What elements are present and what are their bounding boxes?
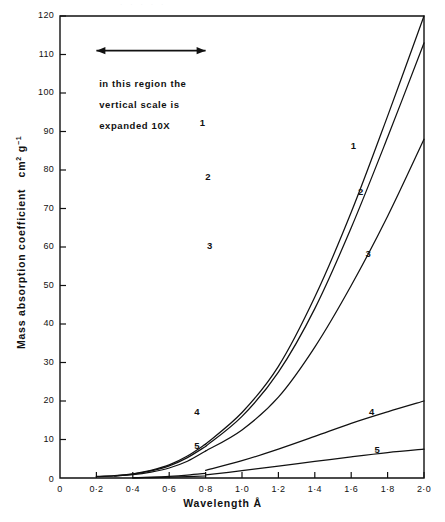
curve-2-normal [206, 43, 424, 446]
x-tick-label: 0·4 [116, 484, 150, 494]
y-tick-label: 110 [20, 49, 54, 59]
curve-label-5-normal: 5 [375, 444, 380, 455]
curve-label-1-normal: 1 [351, 140, 356, 151]
y-tick-label: 120 [20, 10, 54, 20]
curve-label-4-normal: 4 [369, 406, 374, 417]
curve-1-normal [206, 16, 424, 444]
y-tick-label: 100 [20, 87, 54, 97]
annotation-line-1: in this region the [99, 78, 186, 89]
y-tick-label: 20 [20, 395, 54, 405]
curve-label-4-expanded: 4 [194, 406, 199, 417]
y-tick-label: 30 [20, 357, 54, 367]
x-tick-label: 0 [43, 484, 77, 494]
curve-label-3-expanded: 3 [207, 240, 212, 251]
curve-4-normal [206, 401, 424, 470]
annotation-line-2: vertical scale is [99, 99, 179, 110]
x-tick-label: 1·6 [334, 484, 368, 494]
y-tick-label: 0 [20, 474, 54, 484]
y-tick-label: 90 [20, 126, 54, 136]
curve-3-normal [206, 139, 424, 451]
expanded-region-arrow [96, 47, 205, 54]
y-tick-label: 70 [20, 203, 54, 213]
x-tick-label: 0·2 [79, 484, 113, 494]
curve-label-5-expanded: 5 [194, 440, 199, 451]
mass-absorption-coefficient-chart: · · · · · Mass absorption coefficient cm… [0, 0, 445, 522]
curve-label-2-expanded: 2 [205, 171, 210, 182]
y-tick-label: 60 [20, 241, 54, 251]
y-tick-label: 80 [20, 164, 54, 174]
annotation-line-3: expanded 10X [99, 120, 170, 131]
x-tick-label: 1·4 [298, 484, 332, 494]
x-tick-label: 0·8 [189, 484, 223, 494]
x-tick-label: 0·6 [152, 484, 186, 494]
y-tick-label: 50 [20, 280, 54, 290]
curve-label-3-normal: 3 [365, 248, 370, 259]
x-tick-label: 1·0 [225, 484, 259, 494]
y-tick-label: 10 [20, 434, 54, 444]
y-tick-label: 40 [20, 318, 54, 328]
x-tick-label: 2·0 [407, 484, 441, 494]
curve-label-1-expanded: 1 [200, 117, 205, 128]
curve-label-2-normal: 2 [358, 186, 363, 197]
x-tick-label: 1·8 [371, 484, 405, 494]
x-tick-label: 1·2 [261, 484, 295, 494]
